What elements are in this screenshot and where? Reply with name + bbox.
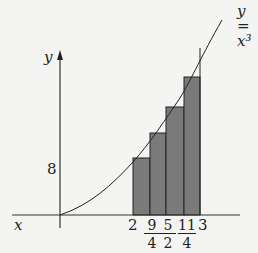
riemann-rectangles <box>133 77 200 215</box>
y-axis-arrow-icon <box>57 50 63 60</box>
x-tick-5-2: 5 2 <box>160 218 176 250</box>
y-tick-8: 8 <box>47 162 57 177</box>
x-tick-3: 3 <box>198 218 208 233</box>
curve-label: y = x³ <box>237 4 258 49</box>
rectangle-1 <box>133 158 150 215</box>
denominator: 2 <box>160 234 176 250</box>
y-axis-label: y <box>44 50 52 65</box>
numerator: 5 <box>160 218 176 234</box>
denominator: 4 <box>178 234 196 250</box>
rectangle-3 <box>166 107 184 215</box>
x-tick-11-4: 11 4 <box>178 218 196 250</box>
x-tick-9-4: 9 4 <box>144 218 160 250</box>
numerator: 11 <box>178 218 196 234</box>
x-axis-label: x <box>14 218 22 233</box>
denominator: 4 <box>144 234 160 250</box>
rectangle-4 <box>184 77 200 215</box>
rectangle-2 <box>150 133 166 215</box>
x-tick-2: 2 <box>128 218 138 233</box>
numerator: 9 <box>144 218 160 234</box>
